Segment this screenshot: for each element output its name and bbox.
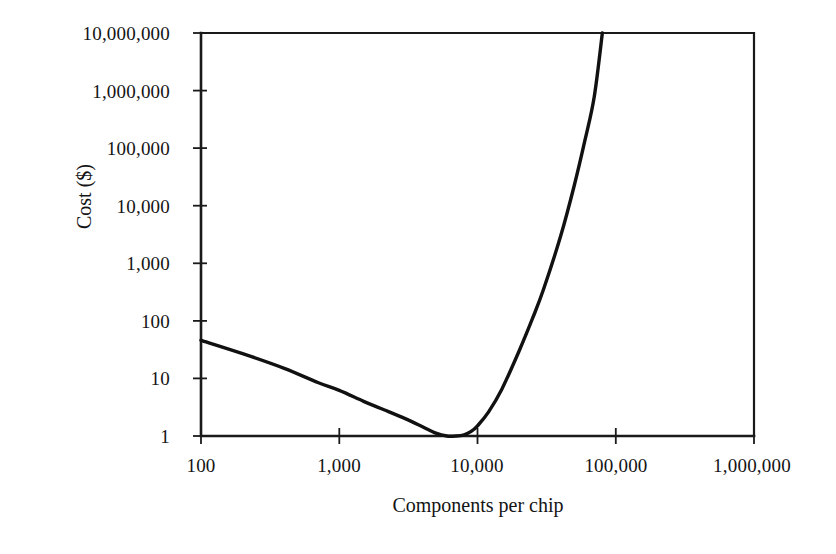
plot-frame <box>201 33 754 436</box>
y-tick-label-10000: 10,000 <box>30 196 170 215</box>
x-tick-label-1000000: 1,000,000 <box>713 456 791 475</box>
x-axis-title: Components per chip <box>201 494 755 517</box>
y-tick-label-100000: 100,000 <box>30 139 170 158</box>
y-axis-title: Cost ($) <box>73 127 96 267</box>
y-tick-label-1: 1 <box>30 427 170 446</box>
x-tick-label-10000: 10,000 <box>450 456 503 475</box>
y-tick-label-10: 10 <box>30 369 170 388</box>
x-tick-label-100: 100 <box>186 456 215 475</box>
chart-figure: 10,000,000 1,000,000 100,000 10,000 1,00… <box>0 0 836 554</box>
y-tick-label-1000: 1,000 <box>30 254 170 273</box>
y-tick-label-1000000: 1,000,000 <box>30 81 170 100</box>
cost-curve <box>201 33 602 436</box>
x-tick-label-1000: 1,000 <box>317 456 361 475</box>
x-tick-label-100000: 100,000 <box>584 456 647 475</box>
y-tick-label-10000000: 10,000,000 <box>30 24 170 43</box>
y-tick-label-100: 100 <box>30 311 170 330</box>
